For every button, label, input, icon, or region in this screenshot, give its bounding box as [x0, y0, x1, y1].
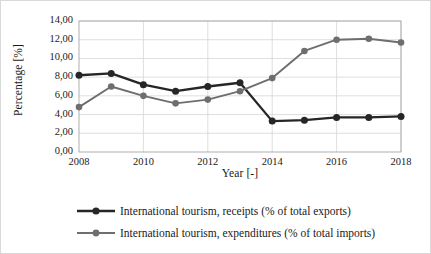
legend-item-expenditures: International tourism, expenditures (% o… — [76, 225, 375, 241]
x-tick-label: 2008 — [57, 156, 101, 167]
y-tick-label: 0,00 — [29, 145, 73, 156]
data-series-layer — [76, 35, 405, 124]
x-tick-label: 2012 — [186, 156, 230, 167]
y-axis-title: Percentage [%] — [12, 30, 24, 130]
y-tick-label: 10,00 — [29, 51, 73, 62]
y-tick-label: 8,00 — [29, 70, 73, 81]
gridlines — [79, 21, 401, 152]
chart-legend: International tourism, receipts (% of to… — [1, 197, 431, 249]
plot-frame — [79, 21, 401, 152]
chart-plot-area: 14,0012,0010,008,006,004,002,000,00 2008… — [1, 1, 431, 196]
series-0 — [76, 70, 405, 125]
y-tick-label: 2,00 — [29, 126, 73, 137]
x-tick-label: 2010 — [121, 156, 165, 167]
y-tick-label: 14,00 — [29, 14, 73, 25]
legend-label-expenditures: International tourism, expenditures (% o… — [120, 227, 375, 239]
legend-label-receipts: International tourism, receipts (% of to… — [120, 205, 351, 217]
x-axis-title: Year [-] — [79, 167, 401, 179]
series-1 — [76, 35, 405, 110]
legend-marker-expenditures — [76, 227, 116, 239]
x-tick-label: 2016 — [315, 156, 359, 167]
y-tick-label: 6,00 — [29, 89, 73, 100]
y-tick-label: 4,00 — [29, 108, 73, 119]
x-tick-label: 2014 — [250, 156, 294, 167]
x-tick-label: 2018 — [379, 156, 423, 167]
y-tick-label: 12,00 — [29, 33, 73, 44]
chart-figure: 14,0012,0010,008,006,004,002,000,00 2008… — [0, 0, 431, 254]
legend-marker-receipts — [76, 205, 116, 217]
legend-item-receipts: International tourism, receipts (% of to… — [76, 203, 351, 219]
